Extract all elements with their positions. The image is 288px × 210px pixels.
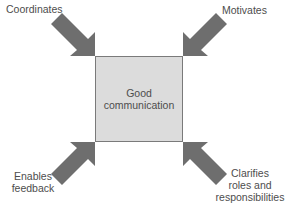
arrow-bottom-left-icon — [51, 142, 95, 185]
label-motivates: Motivates — [222, 4, 267, 16]
label-coordinates: Coordinates — [6, 3, 63, 15]
good-communication-box: Good communication — [95, 56, 183, 142]
arrow-top-left-icon — [51, 13, 95, 56]
center-label-line2: communication — [104, 99, 175, 111]
arrow-top-right-icon — [183, 13, 227, 56]
label-clarifies-roles: Clarifies roles and responsibilities — [214, 167, 286, 203]
center-label-line1: Good — [126, 87, 152, 99]
label-enables-feedback: Enables feedback — [10, 170, 56, 194]
